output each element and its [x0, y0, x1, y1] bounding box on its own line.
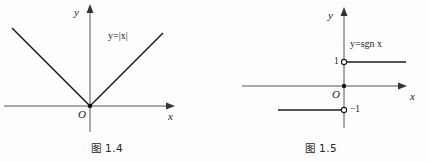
curve-absolute-value — [12, 28, 163, 106]
origin-label: O — [332, 88, 340, 100]
tick-label-negative-one: −1 — [350, 104, 360, 114]
y-axis — [87, 4, 94, 132]
figure-1-5: y x O 1 −1 y=sgn x 图 1.5 — [214, 0, 428, 162]
ray-positive — [341, 59, 406, 64]
tick-label-positive-one: 1 — [334, 56, 339, 66]
curve-label-absolute-value: y=|x| — [108, 30, 128, 41]
y-axis-label: y — [328, 9, 333, 21]
x-axis-label: x — [410, 90, 415, 102]
figure-1-4: y x O y=|x| 图 1.4 — [0, 0, 214, 162]
plot-signum — [214, 0, 428, 140]
origin-dot — [342, 84, 346, 88]
x-axis — [242, 83, 407, 90]
curve-label-signum: y=sgn x — [350, 38, 382, 49]
figure-pair-page: y x O y=|x| 图 1.4 — [0, 0, 428, 162]
origin-label: O — [78, 108, 86, 120]
ray-negative — [278, 107, 347, 112]
open-circle-negative — [341, 107, 346, 112]
figure-caption-1-4: 图 1.4 — [0, 140, 214, 155]
x-axis-label: x — [168, 110, 173, 122]
open-circle-positive — [341, 59, 346, 64]
y-axis-label: y — [74, 6, 79, 18]
origin-dot — [88, 104, 92, 108]
plot-absolute-value — [0, 0, 214, 140]
figure-caption-1-5: 图 1.5 — [214, 140, 428, 155]
